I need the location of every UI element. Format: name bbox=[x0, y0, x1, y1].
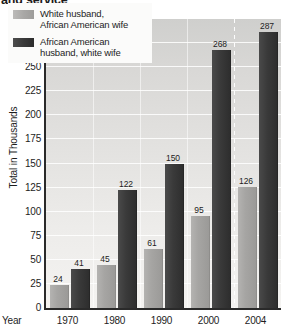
x-axis-tick-label: 1980 bbox=[91, 315, 138, 326]
x-axis-ticks: 19701980199020002004 bbox=[44, 315, 281, 331]
y-axis-tick-label: 25 bbox=[1, 278, 41, 289]
x-axis-label: Year bbox=[2, 315, 21, 326]
legend-item-label: African American husband, white wife bbox=[40, 36, 121, 58]
bar-value-label: 126 bbox=[233, 176, 260, 186]
legend-item-label: White husband, African American wife bbox=[40, 8, 128, 30]
y-axis-tick-label: 50 bbox=[1, 254, 41, 265]
legend-label-line1: White husband, bbox=[40, 8, 128, 19]
x-axis-tick-label: 2004 bbox=[232, 315, 279, 326]
bar bbox=[212, 50, 231, 308]
chart-legend: White husband, African American wife Afr… bbox=[8, 3, 152, 63]
bar-value-label: 150 bbox=[160, 153, 187, 163]
bar bbox=[238, 187, 257, 308]
bar bbox=[71, 269, 90, 308]
category-separator bbox=[187, 19, 188, 308]
bar bbox=[118, 190, 137, 308]
y-axis-label: Total in Thousands bbox=[8, 88, 19, 208]
gridline bbox=[46, 66, 281, 67]
bar-value-label: 268 bbox=[207, 39, 234, 49]
gridline bbox=[46, 163, 281, 164]
bar bbox=[97, 265, 116, 308]
chart-figure: and service 0255075100125150175200225250… bbox=[0, 0, 284, 334]
legend-item-african-american-husband: African American husband, white wife bbox=[13, 36, 148, 58]
bar-value-label: 45 bbox=[92, 254, 119, 264]
bar-value-label: 95 bbox=[186, 205, 213, 215]
x-axis-tick-label: 1970 bbox=[44, 315, 91, 326]
legend-label-line1: African American bbox=[40, 36, 121, 47]
gridline bbox=[46, 114, 281, 115]
y-axis-tick-label: 75 bbox=[1, 230, 41, 241]
bar-value-label: 24 bbox=[45, 274, 72, 284]
bar-value-label: 122 bbox=[113, 179, 140, 189]
x-axis-tick-label: 1990 bbox=[138, 315, 185, 326]
gridline bbox=[46, 90, 281, 91]
bar-value-label: 61 bbox=[139, 238, 166, 248]
bar bbox=[259, 32, 278, 308]
legend-item-white-husband: White husband, African American wife bbox=[13, 8, 148, 30]
legend-label-line2: African American wife bbox=[40, 19, 128, 30]
y-axis-tick-label: 0 bbox=[1, 302, 41, 313]
x-axis-tick-label: 2000 bbox=[185, 315, 232, 326]
bar-value-label: 287 bbox=[254, 21, 281, 31]
bar bbox=[165, 164, 184, 309]
legend-label-line2: husband, white wife bbox=[40, 47, 121, 58]
light-gray-swatch bbox=[13, 10, 34, 19]
gridline bbox=[46, 138, 281, 139]
dark-gray-swatch bbox=[13, 38, 34, 47]
bar bbox=[144, 249, 163, 308]
bar bbox=[191, 216, 210, 308]
bar-value-label: 41 bbox=[66, 258, 93, 268]
category-separator bbox=[234, 19, 235, 308]
bar bbox=[50, 285, 69, 308]
